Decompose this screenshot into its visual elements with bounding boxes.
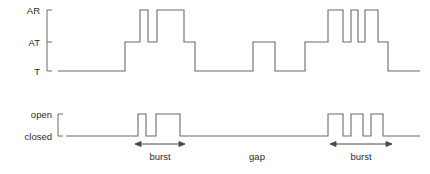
annotation-burst-first-arrow <box>135 142 185 147</box>
valve-signal-trace <box>66 114 420 136</box>
timing-diagram: AR AT T open closed burst <box>0 0 430 174</box>
bottom-axis-bracket <box>58 114 63 136</box>
axis-label-ar: AR <box>27 5 40 16</box>
annotation-label-burst-first: burst <box>149 151 170 162</box>
amplitude-signal-trace <box>58 10 420 71</box>
axis-label-at: AT <box>29 37 41 48</box>
annotation-label-burst-second: burst <box>350 151 371 162</box>
axis-label-t: T <box>34 66 40 77</box>
axis-label-open: open <box>31 109 52 120</box>
annotation-label-gap: gap <box>249 151 265 162</box>
axis-label-closed: closed <box>25 131 52 142</box>
timing-diagram-svg: AR AT T open closed burst <box>0 0 430 174</box>
annotation-burst-second-arrow <box>330 142 392 147</box>
top-axis-bracket <box>47 10 52 71</box>
